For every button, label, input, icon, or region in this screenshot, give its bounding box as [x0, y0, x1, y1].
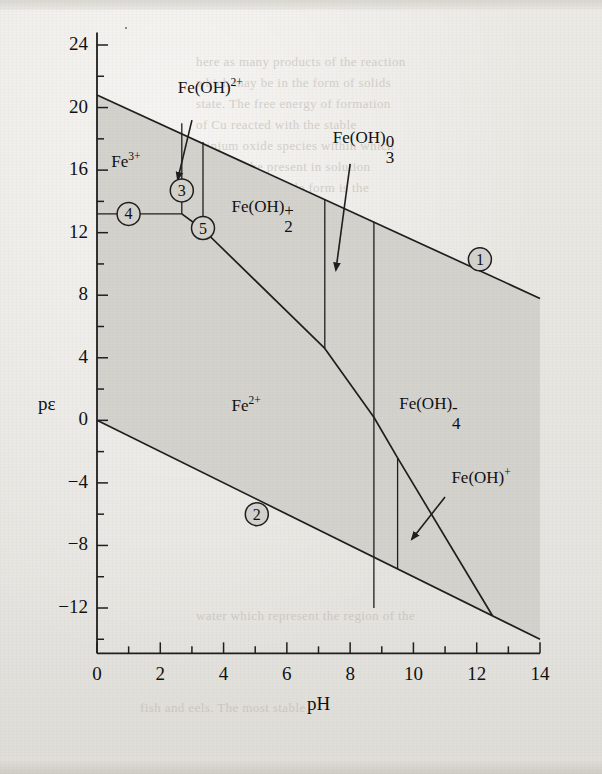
pourbaix-diagram-figure: 12345 [0, 0, 602, 774]
marker-circle-2: 2 [245, 503, 268, 526]
x-tick-label-4: 4 [219, 663, 229, 685]
marker-circle-1: 1 [468, 248, 491, 271]
y-tick-label-0: 0 [79, 408, 89, 430]
x-tick-label-10: 10 [404, 663, 423, 685]
species-label-feohp: Fe(OH)+ [451, 466, 510, 488]
y-tick-label-24: 24 [69, 33, 88, 55]
x-tick-label-14: 14 [531, 663, 550, 685]
marker-number: 2 [253, 506, 261, 523]
species-label-feoh2p: Fe(OH)2+ [178, 76, 243, 98]
species-label-fe3: Fe3+ [111, 150, 140, 172]
marker-circle-4: 4 [117, 202, 140, 225]
x-tick-label-8: 8 [345, 663, 355, 685]
y-tick-label-4: 4 [79, 346, 89, 368]
marker-number: 3 [178, 182, 186, 199]
marker-circle-5: 5 [192, 217, 215, 240]
species-label-feoh2_1: Fe(OH)+2 [231, 197, 290, 217]
ink-speck [125, 27, 127, 29]
x-tick-label-2: 2 [156, 663, 166, 685]
y-tick-label--12: −12 [58, 596, 88, 618]
species-label-feoh3_0: Fe(OH)03 [333, 128, 392, 148]
y-tick-label-8: 8 [79, 283, 89, 305]
marker-number: 1 [476, 251, 484, 268]
y-tick-label--4: −4 [68, 471, 88, 493]
y-axis-title: pε [38, 393, 55, 415]
species-label-fe2: Fe2+ [231, 394, 260, 416]
water-stability-shaded-region [97, 95, 540, 639]
y-tick-label-16: 16 [69, 158, 88, 180]
marker-circle-3: 3 [170, 179, 193, 202]
marker-number: 5 [199, 220, 207, 237]
marker-number: 4 [125, 205, 133, 222]
x-tick-label-0: 0 [92, 663, 102, 685]
x-axis-title: pH [307, 693, 330, 715]
x-tick-label-6: 6 [282, 663, 292, 685]
y-tick-label--8: −8 [68, 533, 88, 555]
y-tick-label-12: 12 [69, 221, 88, 243]
x-tick-label-12: 12 [467, 663, 486, 685]
species-label-feoh4m: Fe(OH)-4 [399, 394, 458, 414]
y-tick-label-20: 20 [69, 96, 88, 118]
